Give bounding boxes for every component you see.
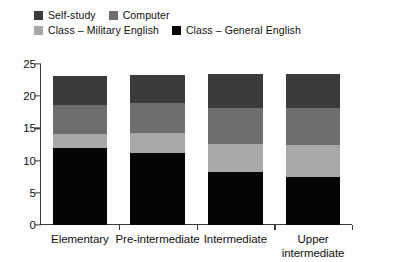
x-axis-tick-labels: ElementaryPre-intermediateIntermediateUp… [41,233,352,262]
bar-segment-class-military-english[interactable] [130,133,184,153]
x-tick-label: Upperintermediate [260,233,366,260]
y-tick-mark [35,192,41,193]
legend-swatch-computer [109,11,118,20]
legend-label-self-study: Self-study [48,10,96,21]
legend-item-self-study[interactable]: Self-study [34,10,96,21]
bar-segment-class-general-english[interactable] [286,177,340,225]
bar-segment-class-military-english[interactable] [53,134,107,148]
bar-segment-class-general-english[interactable] [130,153,184,225]
legend-label-computer: Computer [123,10,170,21]
bar-segment-self-study[interactable] [130,75,184,103]
x-tick-mark [352,225,353,230]
bar-pre-intermediate[interactable] [130,75,184,225]
legend-label-class-military-english: Class – Military English [48,25,159,36]
legend-label-class-general-english: Class – General English [186,25,301,36]
bar-segment-class-military-english[interactable] [208,144,262,172]
y-tick-mark [35,96,41,97]
bar-upper-intermediate[interactable] [286,74,340,225]
bar-segment-computer[interactable] [208,108,262,143]
bar-intermediate[interactable] [208,74,262,225]
bar-elementary[interactable] [53,76,107,225]
bar-segment-computer[interactable] [53,105,107,134]
legend-item-computer[interactable]: Computer [109,10,170,21]
bar-segment-self-study[interactable] [53,76,107,105]
x-tick-mark [274,225,275,230]
x-tick-mark [197,225,198,230]
bar-segment-computer[interactable] [286,108,340,144]
legend-swatch-class-military-english [34,26,43,35]
bar-segment-class-military-english[interactable] [286,145,340,178]
y-tick-mark [35,160,41,161]
y-tick-mark [35,128,41,129]
chart-legend: Self-study Computer Class – Military Eng… [34,8,364,38]
bar-segment-class-general-english[interactable] [53,148,107,225]
bars-container [41,64,352,225]
legend-item-class-general-english[interactable]: Class – General English [172,25,301,36]
plot-region: 0510152025 ElementaryPre-intermediateInt… [0,57,393,262]
y-axis-tick-labels: 0510152025 [8,57,36,225]
bar-segment-class-general-english[interactable] [208,172,262,225]
bar-segment-computer[interactable] [130,103,184,133]
legend-row-1: Self-study Computer [34,8,364,23]
x-tick-mark [119,225,120,230]
bar-segment-self-study[interactable] [208,74,262,108]
y-tick-mark [35,63,41,64]
y-tick-mark [35,224,41,225]
legend-swatch-self-study [34,11,43,20]
legend-swatch-class-general-english [172,26,181,35]
legend-item-class-military-english[interactable]: Class – Military English [34,25,159,36]
stacked-bar-chart: Self-study Computer Class – Military Eng… [0,0,393,262]
legend-row-2: Class – Military English Class – General… [34,23,364,38]
bar-segment-self-study[interactable] [286,74,340,109]
